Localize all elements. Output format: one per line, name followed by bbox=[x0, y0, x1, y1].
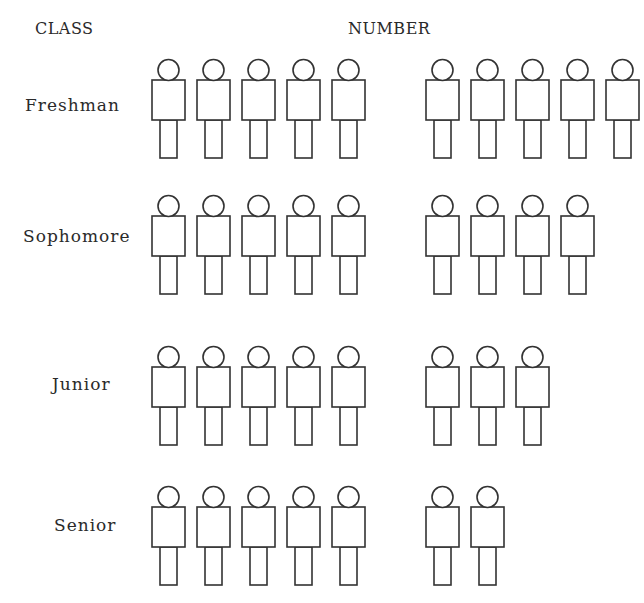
person-icon bbox=[152, 487, 185, 586]
pictograph-row-freshman bbox=[152, 60, 639, 159]
person-icon bbox=[426, 347, 459, 446]
person-icon bbox=[287, 487, 320, 586]
pictograph-row-senior bbox=[152, 487, 504, 586]
person-icon bbox=[471, 347, 504, 446]
person-icon bbox=[332, 196, 365, 295]
person-icon bbox=[471, 487, 504, 586]
pictograph-area bbox=[0, 0, 644, 603]
person-icon bbox=[426, 196, 459, 295]
person-icon bbox=[242, 196, 275, 295]
person-icon bbox=[287, 196, 320, 295]
person-icon bbox=[426, 487, 459, 586]
person-icon bbox=[197, 196, 230, 295]
person-icon bbox=[152, 196, 185, 295]
person-icon bbox=[197, 487, 230, 586]
person-icon bbox=[242, 60, 275, 159]
person-icon bbox=[471, 196, 504, 295]
person-icon bbox=[426, 60, 459, 159]
pictograph-row-sophomore bbox=[152, 196, 594, 295]
person-icon bbox=[516, 347, 549, 446]
person-icon bbox=[197, 60, 230, 159]
person-icon bbox=[197, 347, 230, 446]
person-icon bbox=[287, 60, 320, 159]
person-icon bbox=[152, 347, 185, 446]
person-icon bbox=[287, 347, 320, 446]
person-icon bbox=[561, 60, 594, 159]
person-icon bbox=[242, 347, 275, 446]
pictograph-row-junior bbox=[152, 347, 549, 446]
person-icon bbox=[516, 60, 549, 159]
person-icon bbox=[516, 196, 549, 295]
person-icon bbox=[242, 487, 275, 586]
person-icon bbox=[152, 60, 185, 159]
person-icon bbox=[471, 60, 504, 159]
person-icon bbox=[561, 196, 594, 295]
person-icon bbox=[606, 60, 639, 159]
person-icon bbox=[332, 487, 365, 586]
person-icon bbox=[332, 347, 365, 446]
person-icon bbox=[332, 60, 365, 159]
